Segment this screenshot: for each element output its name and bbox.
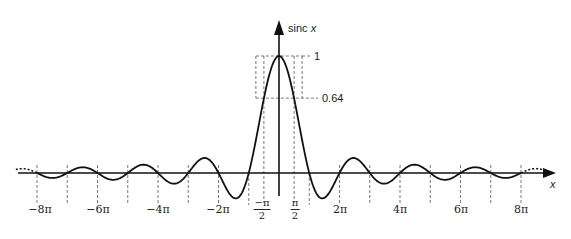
x-axis-arrow-icon — [543, 168, 556, 178]
y-value-064-label: 0.64 — [322, 92, 343, 104]
tick-8pi: 8π — [514, 203, 528, 216]
y-axis-arrow-icon — [274, 20, 284, 35]
tick-4pi: 4π — [393, 203, 407, 216]
y-value-1-label: 1 — [314, 50, 320, 62]
tick-neg-half-pi: −π2 — [254, 197, 271, 222]
tick-half-pi: π2 — [291, 197, 300, 222]
x-axis-label: x — [550, 178, 556, 190]
tick-2pi: 2π — [333, 203, 347, 216]
tick-neg8pi: −8π — [28, 203, 51, 216]
tick-neg4pi: −4π — [146, 203, 169, 216]
y-axis-label: sinc x — [288, 22, 316, 34]
tick-neg6pi: −6π — [86, 203, 109, 216]
tick-6pi: 6π — [454, 203, 468, 216]
y-axis — [274, 20, 284, 196]
tick-neg2pi: −2π — [206, 203, 229, 216]
